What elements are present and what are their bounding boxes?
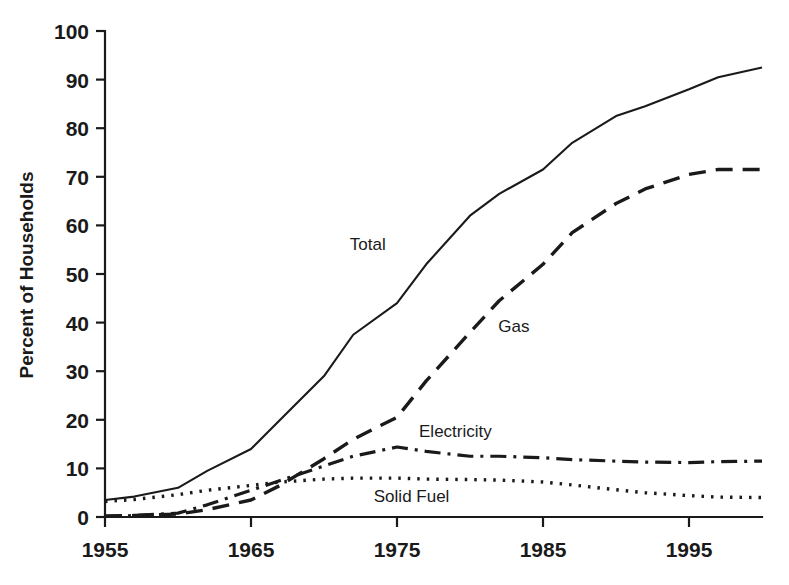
series-label-total: Total xyxy=(350,235,386,254)
line-chart: Percent of Households 010203040506070809… xyxy=(0,0,789,585)
x-tick-label: 1965 xyxy=(228,538,275,561)
y-tick-label: 10 xyxy=(66,457,89,480)
y-tick-label: 50 xyxy=(66,263,89,286)
series-labels: TotalGasElectricitySolid Fuel xyxy=(350,235,530,507)
y-tick-label: 40 xyxy=(66,312,89,335)
x-tick-label: 1975 xyxy=(374,538,421,561)
x-tick-label: 1995 xyxy=(666,538,713,561)
y-axis-title-text: Percent of Households xyxy=(16,172,37,379)
data-series xyxy=(105,67,762,516)
y-axis-title: Percent of Households xyxy=(16,172,37,379)
x-tick-label: 1985 xyxy=(520,538,567,561)
y-tick-label: 80 xyxy=(66,117,89,140)
y-tick-label: 100 xyxy=(54,20,89,43)
y-tick-label: 60 xyxy=(66,214,89,237)
axes xyxy=(105,31,762,517)
chart-container: Percent of Households 010203040506070809… xyxy=(0,0,789,585)
x-axis-ticks: 19551965197519851995 xyxy=(82,517,713,561)
y-tick-label: 0 xyxy=(77,506,89,529)
y-tick-label: 30 xyxy=(66,360,89,383)
y-tick-label: 70 xyxy=(66,166,89,189)
y-tick-label: 20 xyxy=(66,409,89,432)
series-label-gas: Gas xyxy=(498,317,529,336)
x-tick-label: 1955 xyxy=(82,538,129,561)
series-label-electricity: Electricity xyxy=(419,422,492,441)
y-axis-ticks: 0102030405060708090100 xyxy=(54,20,105,529)
series-line-gas xyxy=(105,170,762,517)
series-label-solid-fuel: Solid Fuel xyxy=(374,487,450,506)
y-tick-label: 90 xyxy=(66,69,89,92)
